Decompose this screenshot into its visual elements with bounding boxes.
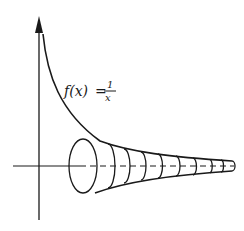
function-label: f(x) = 1 x <box>63 79 116 103</box>
gabriels-horn-diagram: f(x) = 1 x <box>0 0 244 231</box>
function-label-lhs: f(x) <box>63 83 88 99</box>
function-label-numerator: 1 <box>107 79 113 90</box>
cross-section-6 <box>176 156 180 176</box>
function-label-denominator: x <box>105 92 111 103</box>
y-axis-arrow-icon <box>35 16 43 33</box>
horn-bottom-edge <box>95 171 232 193</box>
